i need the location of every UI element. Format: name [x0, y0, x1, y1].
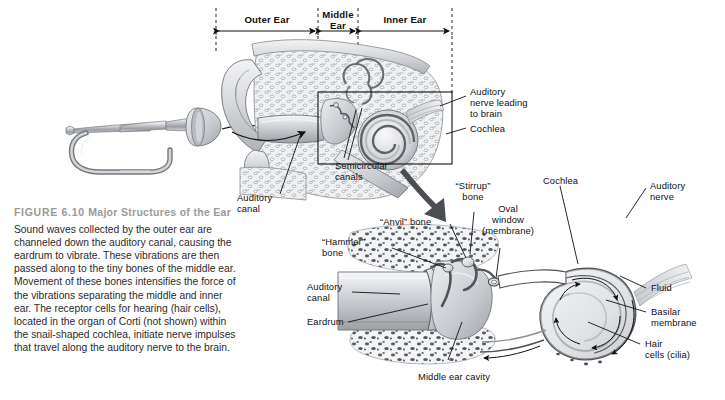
figure-title: Major Structures of the Ear: [88, 206, 231, 218]
figure-number: FIGURE 6.10: [14, 206, 85, 218]
label-stirrup-bone: “Stirrup” bone: [442, 180, 504, 202]
label-cochlea-detail: Cochlea: [543, 175, 578, 186]
region-label-inner-ear: Inner Ear: [358, 15, 452, 26]
label-oval-window-membrane: Oval window (membrane): [472, 203, 544, 237]
label-cochlea: Cochlea: [470, 123, 505, 134]
zoom-arrow-icon: [400, 168, 446, 222]
figure-root: Outer Ear Middle Ear Inner Ear Auditory …: [0, 0, 725, 400]
label-auditory-canal-detail: Auditory canal: [307, 281, 342, 303]
label-basilar-membrane: Basilar membrane: [651, 306, 697, 328]
label-auditory-nerve-leading-to-brain: Auditory nerve leading to brain: [470, 86, 528, 120]
figure-caption-text: Sound waves collected by the outer ear a…: [14, 223, 236, 355]
label-auditory-nerve: Auditory nerve: [650, 180, 685, 202]
label-fluid: Fluid: [651, 282, 672, 293]
label-hammer-bone: “Hammer” bone: [322, 236, 365, 258]
bugle-illustration: [66, 108, 221, 172]
label-eardrum: Eardrum: [307, 316, 344, 327]
middle-and-inner-ear-detail-illustration: [338, 225, 692, 366]
label-anvil-bone: “Anvil” bone: [380, 216, 431, 227]
label-auditory-canal: Auditory canal: [237, 192, 272, 214]
region-label-outer-ear: Outer Ear: [216, 15, 318, 26]
label-semicircular-canals: Semicircular canals: [335, 160, 388, 182]
figure-caption-block: FIGURE 6.10 Major Structures of the Ear …: [14, 206, 236, 355]
label-hair-cells-cilia: Hair cells (cilia): [645, 338, 690, 360]
figure-heading: FIGURE 6.10 Major Structures of the Ear: [14, 206, 236, 220]
region-label-middle-ear: Middle Ear: [316, 10, 360, 31]
label-middle-ear-cavity: Middle ear cavity: [418, 371, 490, 382]
